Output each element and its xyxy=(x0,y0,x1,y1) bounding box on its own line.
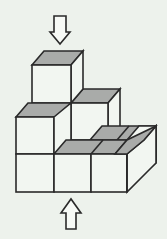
down-arrow-icon xyxy=(50,16,70,44)
cube-top xyxy=(32,51,83,103)
up-arrow-icon xyxy=(61,199,81,229)
cube-stack-diagram xyxy=(0,0,167,239)
